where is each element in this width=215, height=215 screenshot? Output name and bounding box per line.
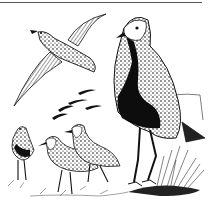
flying-plover	[14, 14, 106, 106]
plover-illustration	[0, 0, 215, 215]
illustration-frame	[0, 0, 215, 215]
grass-tuft	[156, 146, 204, 190]
ground-texture	[8, 180, 128, 196]
ground-mound	[128, 185, 200, 196]
standing-plover	[114, 17, 205, 186]
distant-flock	[52, 89, 102, 120]
walking-plover-left	[12, 127, 34, 180]
